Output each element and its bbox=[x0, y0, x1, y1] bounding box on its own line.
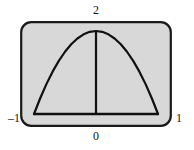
y-max-label: 2 bbox=[0, 4, 192, 16]
plot-svg bbox=[20, 21, 172, 127]
plot-frame bbox=[20, 21, 172, 127]
x-origin-label: 0 bbox=[0, 130, 192, 142]
x-max-label: 1 bbox=[176, 112, 192, 124]
parabola-figure: 2 –1 1 0 bbox=[0, 0, 194, 150]
x-min-label: –1 bbox=[2, 112, 20, 124]
